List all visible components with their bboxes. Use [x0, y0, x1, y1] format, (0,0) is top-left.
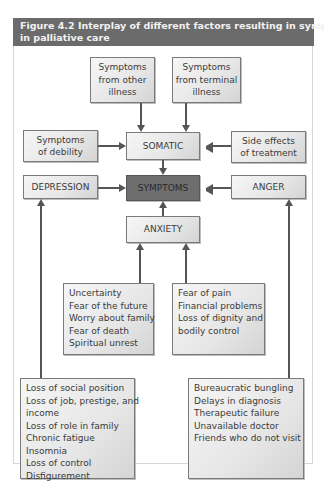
node-text: ANGER	[253, 181, 285, 194]
connector	[40, 206, 42, 378]
figure-title-line1: Figure 4.2 Interplay of different factor…	[20, 20, 308, 32]
figure-title-line2: in palliative care	[20, 32, 308, 44]
node-text: DEPRESSION	[32, 181, 90, 194]
cause-item: Fear of death	[69, 325, 153, 338]
node-other-illness: Symptoms from other illness	[90, 57, 155, 103]
cause-item: Fear of the future	[69, 300, 153, 313]
cause-item: Loss of dignity and	[178, 312, 264, 325]
arrow-down-icon	[159, 168, 167, 175]
cause-item: Loss of role in family	[26, 420, 134, 433]
connector	[185, 250, 187, 283]
node-text: Symptoms	[36, 134, 84, 147]
node-anger: ANGER	[231, 175, 306, 199]
node-symptoms: SYMPTOMS	[126, 175, 200, 201]
connector	[98, 145, 119, 147]
node-debility: Symptoms of debility	[23, 130, 98, 162]
node-text: Side effects	[242, 135, 295, 148]
cause-item: Insomnia	[26, 445, 134, 458]
cause-item: Loss of job, prestige, and	[26, 395, 134, 408]
arrow-down-icon	[137, 125, 145, 132]
node-text: ANXIETY	[144, 223, 182, 236]
arrow-down-icon	[182, 125, 190, 132]
arrow-right-icon	[119, 184, 126, 192]
cause-item: Unavailable doctor	[194, 420, 303, 433]
cause-item: Therapeutic failure	[194, 407, 303, 420]
arrow-up-icon	[136, 243, 144, 250]
node-text: of debility	[38, 146, 83, 159]
node-text: illness	[108, 86, 136, 99]
cause-item: Financial problems	[178, 300, 264, 313]
node-terminal-illness: Symptoms from terminal illness	[172, 57, 241, 103]
cause-item: Worry about family	[69, 312, 153, 325]
node-text: Symptoms	[182, 61, 230, 74]
connector	[139, 250, 141, 283]
cause-item: Bureaucratic bungling	[194, 382, 303, 395]
cause-item: Chronic fatigue	[26, 432, 134, 445]
arrow-up-icon	[285, 199, 293, 206]
arrow-up-icon	[37, 199, 45, 206]
arrow-up-icon	[182, 243, 190, 250]
connector	[140, 103, 142, 125]
node-anxiety-causes-left: Uncertainty Fear of the future Worry abo…	[63, 283, 154, 355]
connector	[288, 206, 290, 378]
arrow-left-icon	[201, 184, 213, 195]
arrow-left-icon	[201, 142, 213, 153]
node-anxiety: ANXIETY	[126, 216, 200, 243]
cause-item: Delays in diagnosis	[194, 395, 303, 408]
node-depression-causes: Loss of social position Loss of job, pre…	[20, 378, 135, 479]
node-anxiety-causes-right: Fear of pain Financial problems Loss of …	[172, 283, 265, 355]
connector	[98, 187, 119, 189]
cause-item: Friends who do not visit	[194, 432, 303, 445]
node-text: of treatment	[240, 147, 297, 160]
arrow-up-icon	[159, 201, 167, 208]
node-text: SYMPTOMS	[138, 182, 188, 195]
node-side-effects: Side effects of treatment	[231, 131, 306, 163]
node-text: from other	[99, 74, 147, 87]
node-text: from terminal	[176, 74, 237, 87]
cause-item: Spiritual unrest	[69, 337, 153, 350]
connector	[185, 103, 187, 125]
node-text: illness	[192, 86, 220, 99]
arrow-right-icon	[119, 142, 126, 150]
cause-item: Loss of social position	[26, 382, 134, 395]
figure-title: Figure 4.2 Interplay of different factor…	[13, 18, 314, 46]
cause-item: Uncertainty	[69, 287, 153, 300]
node-text: Symptoms	[98, 61, 146, 74]
cause-item: Loss of control	[26, 457, 134, 470]
cause-item: income	[26, 407, 134, 420]
node-anger-causes: Bureaucratic bungling Delays in diagnosi…	[188, 378, 304, 479]
node-depression: DEPRESSION	[23, 175, 98, 199]
node-text: SOMATIC	[143, 140, 183, 153]
node-somatic: SOMATIC	[126, 132, 200, 160]
cause-item: Fear of pain	[178, 287, 264, 300]
cause-item: bodily control	[178, 325, 264, 338]
cause-item: Disfigurement	[26, 470, 134, 483]
